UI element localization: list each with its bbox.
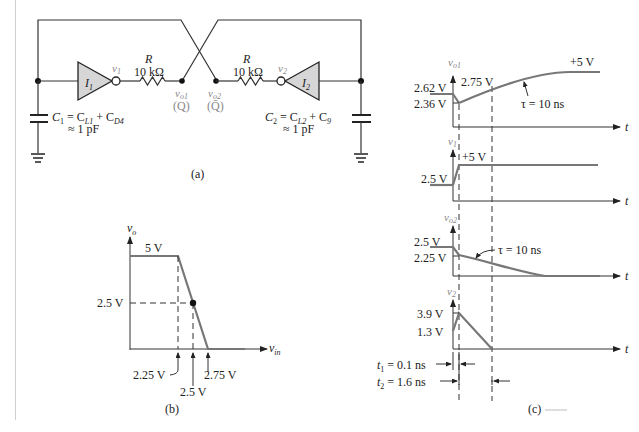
vtc-y-label: vo [127, 221, 136, 237]
vtc-tick-2-75: 2.75 V [204, 368, 237, 382]
vo1-final-label: +5 V [570, 55, 595, 69]
flip-flop-figure: I1 v1 R 10 kΩ vo1 (Q) vo2 (Q̄) R 10 kΩ I… [0, 0, 639, 432]
node-qbar-label: (Q̄) [207, 99, 224, 113]
resistor-2-value: 10 kΩ [233, 65, 263, 79]
feedback-wire-left [38, 20, 217, 81]
circuit-panel: I1 v1 R 10 kΩ vo1 (Q) vo2 (Q̄) R 10 kΩ I… [30, 20, 371, 181]
t1-label: t1 = 0.1 ns [377, 358, 426, 374]
feedback-wire-right [182, 20, 361, 81]
vtc-vout-mid: 2.5 V [97, 296, 124, 310]
vtc-midpoint [190, 300, 196, 306]
ground-icon [354, 154, 368, 162]
svg-text:vo2: vo2 [444, 211, 457, 225]
vo1-min-label: 2.36 V [414, 97, 447, 111]
waveform-vo2: t vo2 2.5 V 2.25 V τ = 10 ns [414, 211, 629, 283]
svg-text:vo1: vo1 [448, 56, 461, 70]
v2-low-label: 1.3 V [417, 325, 444, 339]
waveform-v1: t v1 2.5 V +5 V [421, 135, 629, 208]
vtc-tick-2-25: 2.25 V [133, 368, 166, 382]
vo1-tau-label: τ = 10 ns [521, 97, 565, 111]
vtc-curve [130, 256, 245, 349]
t2-label: t2 = 1.6 ns [377, 375, 426, 391]
node-vo1 [179, 78, 185, 84]
v1-final-label: +5 V [462, 150, 487, 164]
ground-icon [31, 154, 45, 162]
resistor-2-name: R [242, 52, 251, 66]
c1-value: ≈ 1 pF [68, 122, 100, 136]
inverter-i1-bubble [112, 77, 120, 85]
svg-text:v2: v2 [447, 285, 456, 299]
vo2-drop-label: 2.25 V [414, 251, 447, 265]
node-v1-label: v1 [112, 62, 121, 76]
v1-initial-label: 2.5 V [421, 172, 448, 186]
vtc-vout-high: 5 V [145, 241, 163, 255]
waveform-panel: t vo1 2.62 V 2.36 V 2.75 V +5 V τ = 10 n… [377, 55, 629, 416]
resistor-1-value: 10 kΩ [134, 65, 164, 79]
waveform-vo1: t vo1 2.62 V 2.36 V 2.75 V +5 V τ = 10 n… [414, 55, 629, 134]
inverter-i1 [78, 62, 112, 100]
v2-peak-label: 3.9 V [417, 307, 444, 321]
waveform-v2: t v2 3.9 V 1.3 V [417, 285, 629, 356]
vtc-panel: vo vin 5 V 2.5 V 2.25 V 2.5 V 2.75 V (b) [97, 221, 281, 416]
c2-value: ≈ 1 pF [283, 122, 315, 136]
vtc-tick-2-5: 2.5 V [180, 385, 207, 399]
node-v2-label: v2 [278, 62, 287, 76]
vtc-x-label: vin [269, 341, 281, 357]
vo2-tau-label: τ = 10 ns [498, 243, 542, 257]
svg-text:t: t [625, 194, 629, 208]
svg-text:t: t [625, 120, 629, 134]
vo2-initial-label: 2.5 V [414, 235, 441, 249]
svg-text:t: t [625, 342, 629, 356]
resistor-1-name: R [144, 52, 153, 66]
caption-b: (b) [165, 402, 179, 416]
node-q-label: (Q) [173, 99, 190, 113]
svg-text:v1: v1 [448, 135, 457, 149]
svg-text:t: t [625, 269, 629, 283]
vo1-mid-label: 2.75 V [461, 75, 494, 89]
caption-a: (a) [191, 167, 204, 181]
caption-c: (c) [528, 402, 541, 416]
vo1-initial-label: 2.62 V [414, 81, 447, 95]
